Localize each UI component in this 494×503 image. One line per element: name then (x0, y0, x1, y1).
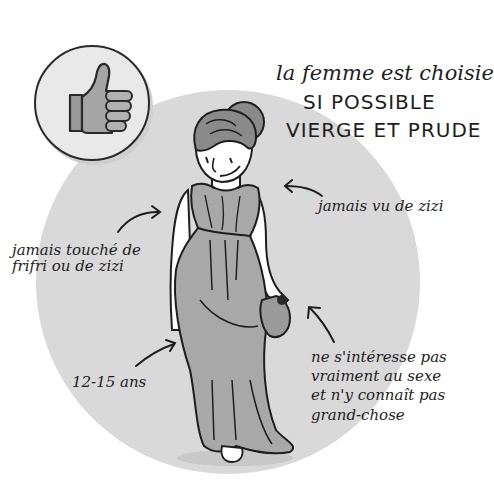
annotation-never-touched: jamais touché de frifri ou de zizi (12, 243, 141, 275)
headline-line-2: SI POSSIBLE (303, 92, 436, 113)
arrow-to-jug (310, 308, 334, 342)
annotation-never-seen: jamais vu de zizi (318, 199, 444, 215)
arrow-to-dress (136, 344, 174, 366)
headline-line-1: la femme est choisie (276, 62, 494, 84)
annotation-age: 12-15 ans (72, 375, 146, 391)
headline-line-3: VIERGE ET PRUDE (286, 120, 481, 141)
annotation-not-interested: ne s'intéresse pas vraiment au sexe et n… (311, 348, 447, 425)
arrow-to-chest (118, 212, 158, 232)
